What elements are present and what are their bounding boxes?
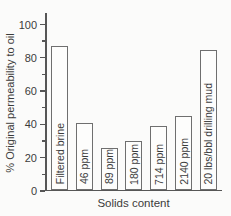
- y-tick-major: [40, 24, 45, 25]
- bar-label: Filtered brine: [54, 123, 66, 184]
- bar: Filtered brine: [51, 46, 68, 189]
- y-tick-major: [40, 90, 45, 91]
- bars-container: Filtered brine46 ppm89 ppm180 ppm714 ppm…: [51, 13, 217, 190]
- bar-label: 89 ppm: [103, 149, 115, 184]
- bar-chart-figure: % Original permeability to oil 020406080…: [0, 0, 231, 216]
- bar-label: 714 ppm: [153, 144, 165, 185]
- y-tick-minor: [42, 40, 45, 41]
- y-tick-label: 100: [13, 19, 37, 31]
- y-axis-line: [45, 13, 47, 191]
- y-tick-minor: [42, 140, 45, 141]
- y-tick-label: 20: [13, 152, 37, 164]
- x-axis-line: [45, 190, 222, 192]
- bar-label: 180 ppm: [128, 144, 140, 185]
- bar-label: 46 ppm: [78, 149, 90, 184]
- bar-label: 20 lbs/bbl drilling mud: [202, 83, 214, 185]
- y-tick-minor: [42, 107, 45, 108]
- y-tick-minor: [42, 74, 45, 75]
- bar-label: 2140 ppm: [178, 138, 190, 185]
- y-tick-label: 60: [13, 85, 37, 97]
- y-tick-label: 80: [13, 52, 37, 64]
- y-tick-minor: [42, 174, 45, 175]
- y-tick-major: [40, 57, 45, 58]
- plot-area: 020406080100 Filtered brine46 ppm89 ppm1…: [45, 13, 222, 191]
- y-tick-major: [40, 157, 45, 158]
- y-tick-major: [40, 190, 45, 191]
- y-tick-label: 0: [13, 185, 37, 197]
- bar: 714 ppm: [150, 126, 167, 189]
- bar: 89 ppm: [101, 148, 118, 190]
- y-tick-major: [40, 124, 45, 125]
- bar: 2140 ppm: [175, 116, 192, 189]
- bar: 20 lbs/bbl drilling mud: [200, 50, 217, 190]
- bar: 46 ppm: [76, 123, 93, 190]
- x-axis-title: Solids content: [45, 197, 222, 209]
- y-tick-label: 40: [13, 118, 37, 130]
- bar: 180 ppm: [125, 141, 142, 189]
